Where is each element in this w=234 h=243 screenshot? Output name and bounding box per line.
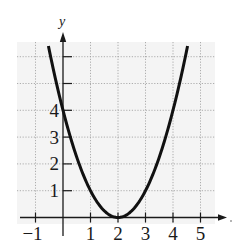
- y-tick-label: 3: [50, 127, 60, 148]
- x-tick-label: −1: [22, 223, 42, 243]
- y-tick-label: 1: [50, 180, 60, 201]
- x-tick-label: 2: [113, 223, 123, 243]
- x-tick-label: 1: [86, 223, 96, 243]
- y-tick-label: 2: [50, 153, 60, 174]
- grid-background: [17, 42, 215, 224]
- y-tick-label: 4: [50, 100, 60, 121]
- stray-dot: [230, 220, 232, 222]
- x-tick-label: 5: [196, 223, 206, 243]
- x-tick-label: 3: [141, 223, 151, 243]
- x-tick-label: 4: [168, 223, 178, 243]
- y-axis-arrow-icon: [60, 32, 66, 42]
- x-axis-arrow-icon: [218, 214, 227, 220]
- y-axis-label: y: [57, 14, 66, 29]
- parabola-chart: −1123451234 y: [0, 0, 234, 243]
